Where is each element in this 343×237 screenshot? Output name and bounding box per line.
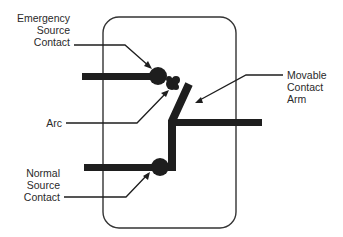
label-line: Movable xyxy=(287,69,327,81)
label-line: Arm xyxy=(287,93,327,105)
arrowhead-movable-arm xyxy=(195,97,203,103)
label-arc: Arc xyxy=(30,117,62,129)
leader-movable-arm xyxy=(198,75,283,101)
emergency-source-contact xyxy=(149,67,167,85)
label-line: Source xyxy=(8,179,60,191)
label-line: Contact xyxy=(8,191,60,203)
label-line: Arc xyxy=(30,117,62,129)
load-bus xyxy=(172,119,262,126)
leader-arc xyxy=(66,92,167,123)
normal-source-contact xyxy=(151,158,169,176)
label-line: Contact xyxy=(8,36,70,48)
emergency-source-bus xyxy=(82,73,154,80)
label-line: Source xyxy=(8,24,70,36)
label-movable-contact-arm: Movable Contact Arm xyxy=(287,69,327,105)
label-line: Normal xyxy=(8,167,60,179)
leader-emergency xyxy=(74,45,150,67)
leader-normal xyxy=(64,174,148,197)
label-emergency-source-contact: Emergency Source Contact xyxy=(8,12,70,48)
label-line: Contact xyxy=(287,81,327,93)
movable-contact-arm xyxy=(172,84,189,171)
label-line: Emergency xyxy=(8,12,70,24)
arc-icon xyxy=(166,76,180,90)
label-normal-source-contact: Normal Source Contact xyxy=(8,167,60,203)
arrowhead-arc xyxy=(161,90,169,97)
